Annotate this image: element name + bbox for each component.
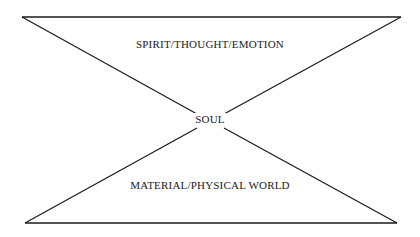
hourglass-diagram: SPIRIT/THOUGHT/EMOTION SOUL MATERIAL/PHY… — [0, 0, 420, 237]
material-label: MATERIAL/PHYSICAL WORLD — [0, 179, 420, 191]
diagonal-left-top-to-right-bottom-lower — [224, 128, 397, 223]
diagonal-left-top-to-right-bottom — [22, 17, 197, 114]
soul-label: SOUL — [0, 113, 420, 125]
diagonal-right-top-to-left-bottom — [224, 17, 401, 114]
spirit-label: SPIRIT/THOUGHT/EMOTION — [0, 38, 420, 50]
diagonal-right-top-to-left-bottom-lower — [25, 128, 197, 223]
soul-label-text: SOUL — [194, 113, 226, 125]
